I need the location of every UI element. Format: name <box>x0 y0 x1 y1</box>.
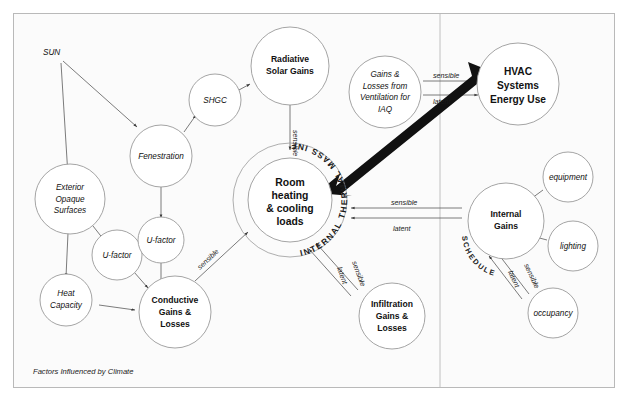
node-equipment[interactable]: equipment <box>543 152 593 202</box>
node-shgc-label: SHGC <box>203 96 227 105</box>
node-heat-capacity-line-1: Heat <box>57 289 75 298</box>
node-room-loads-line-3: & cooling <box>266 203 313 214</box>
node-infiltration-line-2: Gains & <box>376 311 408 321</box>
node-internal-gains-line-2: Gains <box>494 221 518 231</box>
node-ventilation-line-4: IAQ <box>378 105 393 114</box>
node-infiltration-line-1: Infiltration <box>371 299 413 309</box>
node-exterior-line-1: Exterior <box>56 183 84 192</box>
node-fenestration[interactable]: Fenestration <box>130 125 192 187</box>
node-ventilation-line-2: Losses from <box>363 82 408 91</box>
node-lighting[interactable]: lighting <box>548 221 598 271</box>
diagram-canvas: SUN SHGC Fenestration Radiative Solar Ga… <box>0 0 628 403</box>
node-room-loads-line-4: loads <box>276 216 303 227</box>
node-conductive-line-1: Conductive <box>152 295 199 305</box>
node-conductive-line-2: Gains & <box>159 307 191 317</box>
edge-label-internal-latent: latent <box>393 224 412 233</box>
node-infiltration-line-3: Losses <box>377 323 407 333</box>
node-room-loads-line-2: heating <box>272 190 309 201</box>
node-u-factor-left[interactable]: U-factor <box>92 230 142 280</box>
edge-label-ventilation-latent: latent <box>433 97 452 106</box>
node-ventilation-line-3: Ventilation for <box>360 93 410 102</box>
node-hvac-systems[interactable]: HVAC Systems Energy Use <box>477 43 559 125</box>
node-equipment-label: equipment <box>549 173 588 182</box>
node-fenestration-label: Fenestration <box>138 152 184 161</box>
edge-label-solar-sensible: sensible <box>291 130 300 156</box>
node-exterior-line-2: Opaque <box>55 195 85 204</box>
node-heat-capacity-line-2: Capacity <box>50 301 83 310</box>
node-radiative-solar-gains-line-1: Radiative <box>271 54 309 64</box>
node-conductive-line-3: Losses <box>160 319 190 329</box>
node-u-factor-left-label: U-factor <box>102 251 131 260</box>
node-internal-gains[interactable]: Internal Gains <box>468 183 544 259</box>
energy-flow-diagram: SUN SHGC Fenestration Radiative Solar Ga… <box>0 0 628 403</box>
node-internal-gains-line-1: Internal <box>490 209 521 219</box>
node-shgc[interactable]: SHGC <box>189 74 241 126</box>
node-room-loads-line-1: Room <box>275 177 304 188</box>
node-radiative-solar-gains[interactable]: Radiative Solar Gains <box>251 27 329 105</box>
node-sun-label: SUN <box>43 48 60 57</box>
node-ventilation-line-1: Gains & <box>370 70 400 79</box>
node-occupancy-label: occupancy <box>533 309 573 318</box>
node-hvac-line-2: Systems <box>497 80 539 91</box>
edge-label-ventilation-sensible: sensible <box>433 71 459 80</box>
node-exterior-line-3: Surfaces <box>54 206 86 215</box>
node-infiltration-gains-losses[interactable]: Infiltration Gains & Losses <box>359 283 425 349</box>
node-hvac-line-3: Energy Use <box>490 94 546 105</box>
node-occupancy[interactable]: occupancy <box>528 288 578 338</box>
edge-label-internal-sensible: sensible <box>391 198 417 207</box>
figure-caption: Factors Influenced by Climate <box>33 367 133 376</box>
node-u-factor-mid-label: U-factor <box>146 236 175 245</box>
node-heat-capacity[interactable]: Heat Capacity <box>40 274 92 326</box>
node-ventilation-iaq[interactable]: Gains & Losses from Ventilation for IAQ <box>349 56 421 128</box>
node-lighting-label: lighting <box>560 242 586 251</box>
node-exterior-opaque-surfaces[interactable]: Exterior Opaque Surfaces <box>35 164 105 234</box>
node-ventilation-iaq-shape[interactable] <box>349 56 421 128</box>
node-conductive-gains-losses[interactable]: Conductive Gains & Losses <box>139 276 211 348</box>
node-u-factor-mid[interactable]: U-factor <box>138 217 184 263</box>
node-radiative-solar-gains-line-2: Solar Gains <box>266 66 314 76</box>
node-hvac-line-1: HVAC <box>504 66 533 77</box>
